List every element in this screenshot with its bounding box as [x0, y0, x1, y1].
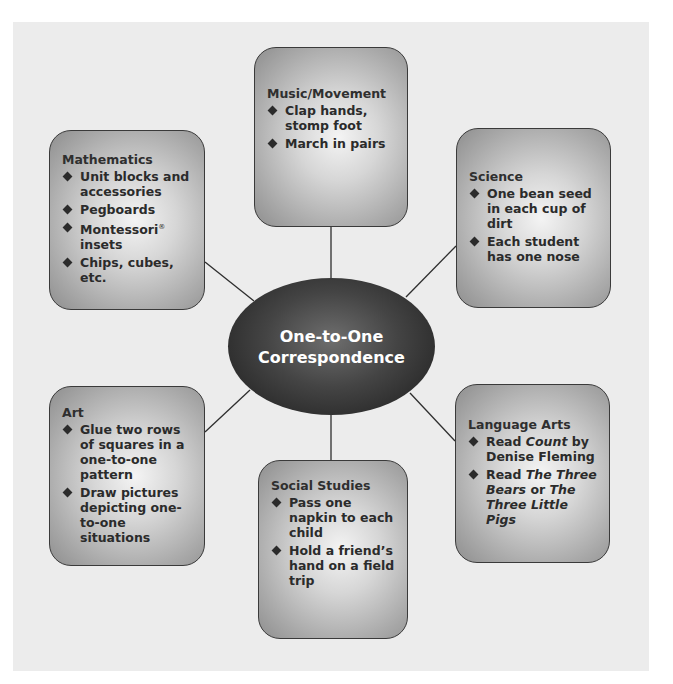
list-item: Pass one napkin to each child	[271, 495, 399, 540]
node-art: Art Glue two rows of squares in a one-to…	[49, 386, 205, 566]
node-title: Mathematics	[62, 152, 196, 167]
diamond-bullet-icon	[63, 172, 73, 182]
node-list: Glue two rows of squares in a one-to-one…	[62, 422, 196, 548]
connector-math	[205, 262, 254, 301]
book-title: Count	[526, 434, 568, 449]
diamond-bullet-icon	[63, 258, 73, 268]
node-list: Unit blocks and accessories Pegboards Mo…	[62, 169, 196, 288]
diamond-bullet-icon	[469, 470, 479, 480]
diamond-bullet-icon	[470, 237, 480, 247]
diamond-bullet-icon	[268, 139, 278, 149]
list-item: Montessori® insets	[62, 220, 196, 252]
central-concept: One-to-One Correspondence	[228, 278, 435, 415]
node-title: Art	[62, 405, 196, 420]
diamond-bullet-icon	[272, 546, 282, 556]
diamond-bullet-icon	[272, 498, 282, 508]
list-item: Each student has one nose	[469, 234, 602, 264]
node-title: Music/Movement	[267, 86, 399, 101]
connector-science	[406, 246, 456, 297]
list-item: Chips, cubes, etc.	[62, 255, 196, 285]
connector-language	[410, 393, 455, 441]
diamond-bullet-icon	[470, 189, 480, 199]
connector-art	[205, 390, 250, 432]
node-social-studies: Social Studies Pass one napkin to each c…	[258, 460, 408, 639]
central-concept-title: One-to-One Correspondence	[258, 326, 405, 368]
node-list: Read Count by Denise Fleming Read The Th…	[468, 434, 601, 530]
node-list: One bean seed in each cup of dirt Each s…	[469, 186, 602, 267]
list-item: Clap hands, stomp foot	[267, 103, 399, 133]
list-item: March in pairs	[267, 136, 399, 151]
list-item: Pegboards	[62, 202, 196, 217]
list-item: Glue two rows of squares in a one-to-one…	[62, 422, 196, 482]
node-language-arts: Language Arts Read Count by Denise Flemi…	[455, 384, 610, 563]
registered-mark: ®	[158, 223, 165, 231]
node-music-movement: Music/Movement Clap hands, stomp foot Ma…	[254, 47, 408, 227]
node-list: Clap hands, stomp foot March in pairs	[267, 103, 399, 154]
list-item: Read The Three Bears or The Three Little…	[468, 467, 601, 527]
node-title: Social Studies	[271, 478, 399, 493]
diamond-bullet-icon	[63, 223, 73, 233]
diamond-bullet-icon	[268, 106, 278, 116]
diamond-bullet-icon	[63, 205, 73, 215]
node-science: Science One bean seed in each cup of dir…	[456, 128, 611, 308]
node-title: Science	[469, 169, 602, 184]
diamond-bullet-icon	[469, 437, 479, 447]
node-title: Language Arts	[468, 417, 601, 432]
diamond-bullet-icon	[63, 424, 73, 434]
diamond-bullet-icon	[63, 487, 73, 497]
list-item: Draw pictures depicting one-to-one situa…	[62, 485, 196, 545]
list-item: One bean seed in each cup of dirt	[469, 186, 602, 231]
list-item: Unit blocks and accessories	[62, 169, 196, 199]
node-mathematics: Mathematics Unit blocks and accessories …	[49, 130, 205, 310]
list-item: Read Count by Denise Fleming	[468, 434, 601, 464]
node-list: Pass one napkin to each child Hold a fri…	[271, 495, 399, 591]
list-item: Hold a friend’s hand on a field trip	[271, 543, 399, 588]
